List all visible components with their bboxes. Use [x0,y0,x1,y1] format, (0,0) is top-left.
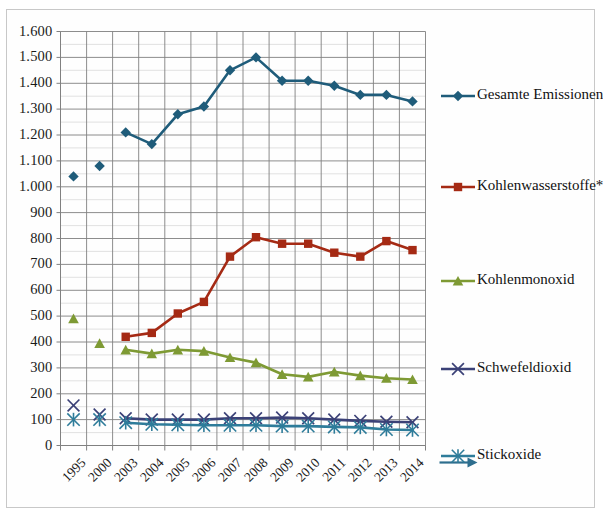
chart-canvas: 1.6001.5001.4001.3001.2001.1001.00090080… [0,0,603,521]
legend-item-2[interactable]: Kohlenwasserstoffe* [441,177,603,194]
y-tick-label: 600 [0,281,53,298]
legend-label: Stickoxide [477,446,541,463]
legend-item-1[interactable]: Gesamte Emissionen [441,86,603,103]
legend-marker-square-icon [441,179,475,193]
y-tick-label: 1.300 [0,100,53,117]
legend-label: Schwefeldioxid [477,359,571,376]
y-tick-label: 1.500 [0,48,53,65]
legend-marker-diamond-icon [441,88,475,102]
legend-item-3[interactable]: Kohlenmonoxid [441,271,575,288]
y-tick-label: 0 [0,437,53,454]
y-tick-label: 900 [0,204,53,221]
y-tick-label: 1.200 [0,126,53,143]
y-tick-label: 1.600 [0,23,53,40]
y-tick-label: 400 [0,333,53,350]
legend-item-4[interactable]: Schwefeldioxid [441,359,571,376]
y-tick-label: 1.000 [0,178,53,195]
legend-marker-triangle-icon [441,273,475,287]
legend-marker-star-icon [441,448,475,462]
legend-label: Kohlenwasserstoffe* [477,177,603,194]
plot-svg [0,0,603,521]
y-tick-label: 100 [0,411,53,428]
y-tick-label: 500 [0,307,53,324]
legend-marker-x-icon [441,361,475,375]
legend-label: Kohlenmonoxid [477,271,575,288]
chart-page: 1.6001.5001.4001.3001.2001.1001.00090080… [0,0,603,521]
y-tick-label: 1.400 [0,74,53,91]
y-tick-label: 700 [0,255,53,272]
legend-item-5[interactable]: Stickoxide [441,446,541,463]
y-tick-label: 800 [0,230,53,247]
legend-label: Gesamte Emissionen [477,86,603,103]
y-tick-label: 1.100 [0,152,53,169]
y-tick-label: 200 [0,385,53,402]
y-tick-label: 300 [0,359,53,376]
